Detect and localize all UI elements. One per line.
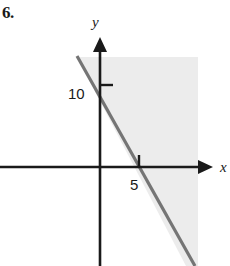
- x-axis-arrowhead: [198, 160, 213, 174]
- x-tick-label-5: 5: [130, 176, 138, 193]
- x-axis-label: x: [219, 159, 227, 175]
- y-axis-arrowhead: [93, 37, 107, 52]
- coordinate-graph: y x 10 5: [0, 0, 230, 266]
- y-axis-label: y: [90, 14, 99, 30]
- y-tick-label-10: 10: [68, 85, 85, 102]
- graph-figure: 6. y x 10 5: [0, 0, 230, 266]
